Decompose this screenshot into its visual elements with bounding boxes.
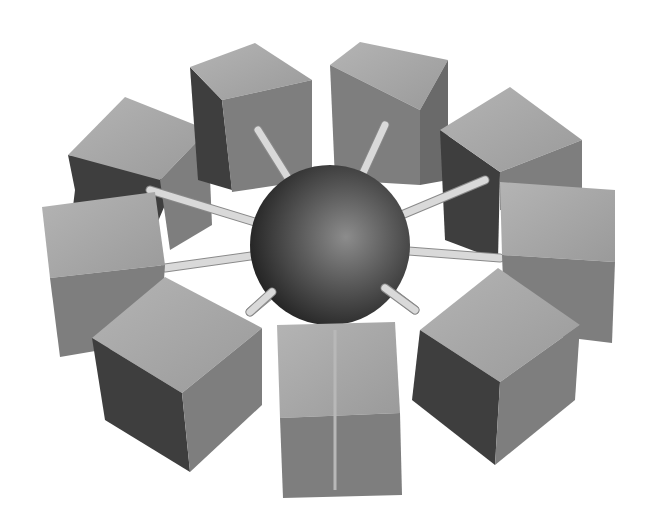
cube-top-left — [190, 43, 312, 192]
hub-sphere — [250, 165, 410, 325]
cube-bottom — [277, 322, 402, 498]
cube-top-right — [330, 42, 448, 185]
hub-network-illustration — [0, 0, 655, 530]
